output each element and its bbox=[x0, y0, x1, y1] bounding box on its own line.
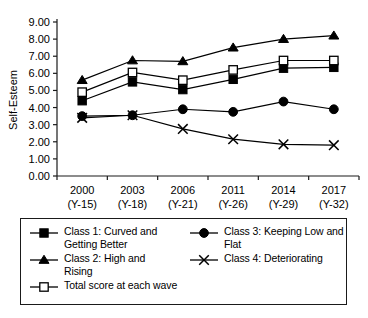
data-point-filled-square bbox=[128, 78, 136, 86]
legend-item[interactable]: Class 2: High and Rising bbox=[29, 252, 179, 277]
legend-marker bbox=[29, 253, 59, 267]
y-tick-label: 8.00 bbox=[29, 33, 50, 45]
line-chart-svg: Self-Esteem 0.001.002.003.004.005.006.00… bbox=[0, 0, 368, 212]
chart-legend: Class 1: Curved and Getting BetterClass … bbox=[20, 218, 347, 305]
legend-item-label: Class 2: High and Rising bbox=[64, 252, 145, 277]
y-tick-label: 0.00 bbox=[29, 170, 50, 182]
data-point-filled-square bbox=[78, 97, 86, 105]
x-tick-label-year: 2000 bbox=[70, 184, 94, 196]
x-tick-label-age: (Y-18) bbox=[118, 198, 148, 210]
legend-marker bbox=[189, 226, 219, 240]
axis-lines bbox=[57, 19, 359, 176]
data-point-filled-triangle bbox=[128, 56, 138, 64]
legend-marker-glyph bbox=[39, 255, 49, 263]
x-tick-label-year: 2017 bbox=[322, 184, 346, 196]
series-line bbox=[82, 102, 334, 117]
data-point-open-square bbox=[179, 76, 187, 84]
data-point-filled-circle bbox=[78, 112, 87, 121]
chart-figure: Self-Esteem 0.001.002.003.004.005.006.00… bbox=[0, 0, 368, 318]
x-tick-label-age: (Y-32) bbox=[319, 198, 349, 210]
series-1 bbox=[78, 63, 338, 105]
legend-marker-glyph bbox=[40, 283, 48, 291]
y-tick-label: 3.00 bbox=[29, 119, 50, 131]
y-tick-label: 2.00 bbox=[29, 136, 50, 148]
legend-marker-filled-circle bbox=[189, 226, 219, 240]
legend-entries: Class 1: Curved and Getting BetterClass … bbox=[21, 219, 346, 304]
x-tick-label-age: (Y-29) bbox=[269, 198, 299, 210]
y-tick-label: 9.00 bbox=[29, 16, 50, 28]
x-tick-label-age: (Y-26) bbox=[218, 198, 248, 210]
legend-item[interactable]: Total score at each wave bbox=[29, 279, 209, 294]
legend-marker-glyph bbox=[200, 229, 209, 238]
x-tick-label-age: (Y-21) bbox=[168, 198, 198, 210]
x-tick-label-year: 2003 bbox=[120, 184, 144, 196]
y-axis-title: Self-Esteem bbox=[7, 70, 19, 130]
data-point-open-square bbox=[279, 56, 287, 64]
legend-item-label: Total score at each wave bbox=[64, 279, 177, 292]
x-axis-ticks bbox=[57, 176, 359, 180]
y-tick-label: 6.00 bbox=[29, 67, 50, 79]
data-point-open-square bbox=[229, 66, 237, 74]
legend-item[interactable]: Class 3: Keeping Low and Flat bbox=[189, 225, 344, 250]
x-tick-label-year: 2006 bbox=[171, 184, 195, 196]
data-point-filled-circle bbox=[178, 105, 187, 114]
data-point-filled-circle bbox=[229, 107, 238, 116]
y-tick-label: 4.00 bbox=[29, 102, 50, 114]
data-point-open-square bbox=[330, 56, 338, 64]
data-point-open-square bbox=[128, 68, 136, 76]
y-axis-title-label: Self-Esteem bbox=[7, 70, 19, 130]
legend-marker-filled-square bbox=[29, 226, 59, 240]
data-point-filled-circle bbox=[279, 97, 288, 106]
data-series-layer bbox=[77, 31, 339, 150]
series-line bbox=[82, 36, 334, 80]
y-axis-ticks: 0.001.002.003.004.005.006.007.008.009.00 bbox=[29, 16, 57, 182]
data-point-filled-triangle bbox=[329, 31, 339, 39]
x-axis-labels: 2000(Y-15)2003(Y-18)2006(Y-21)2011(Y-26)… bbox=[67, 184, 348, 210]
data-point-cross-x bbox=[178, 124, 188, 134]
data-point-filled-square bbox=[229, 75, 237, 83]
legend-marker bbox=[29, 226, 59, 240]
legend-item-label: Class 1: Curved and Getting Better bbox=[64, 225, 157, 250]
legend-item-label: Class 3: Keeping Low and Flat bbox=[224, 225, 344, 250]
series-line bbox=[82, 67, 334, 100]
legend-item[interactable]: Class 4: Deteriorating bbox=[189, 252, 344, 267]
data-point-open-square bbox=[78, 88, 86, 96]
legend-marker bbox=[189, 253, 219, 267]
series-3 bbox=[78, 97, 338, 120]
legend-item[interactable]: Class 1: Curved and Getting Better bbox=[29, 225, 179, 250]
legend-marker-open-square bbox=[29, 280, 59, 294]
legend-marker-filled-triangle bbox=[29, 253, 59, 267]
series-line bbox=[82, 115, 334, 145]
y-tick-label: 5.00 bbox=[29, 84, 50, 96]
legend-item-label: Class 4: Deteriorating bbox=[224, 252, 323, 265]
y-tick-label: 1.00 bbox=[29, 153, 50, 165]
x-tick-label-age: (Y-15) bbox=[67, 198, 97, 210]
x-tick-label-year: 2011 bbox=[221, 184, 245, 196]
series-4 bbox=[77, 110, 338, 150]
legend-marker-cross-x bbox=[189, 253, 219, 267]
x-tick-label-year: 2014 bbox=[271, 184, 295, 196]
data-point-filled-triangle bbox=[77, 75, 87, 83]
data-point-filled-square bbox=[179, 85, 187, 93]
chart-plot-area: Self-Esteem 0.001.002.003.004.005.006.00… bbox=[0, 0, 368, 212]
data-point-filled-circle bbox=[329, 105, 338, 114]
series-5 bbox=[78, 56, 338, 96]
legend-marker-glyph bbox=[40, 229, 48, 237]
legend-marker bbox=[29, 280, 59, 294]
y-tick-label: 7.00 bbox=[29, 50, 50, 62]
